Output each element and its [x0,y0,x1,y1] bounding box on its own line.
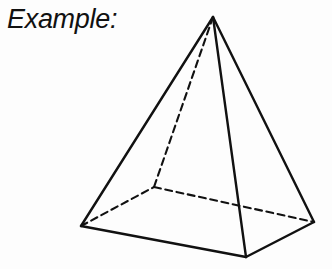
edge-base-front-right [246,222,314,257]
pyramid-edge-group [81,17,314,257]
edge-base-left-front [81,226,246,257]
figure-canvas: Example: [0,0,332,269]
edge-apex-back [154,17,213,187]
square-pyramid-diagram [0,0,332,269]
edge-base-back-right [154,187,314,222]
